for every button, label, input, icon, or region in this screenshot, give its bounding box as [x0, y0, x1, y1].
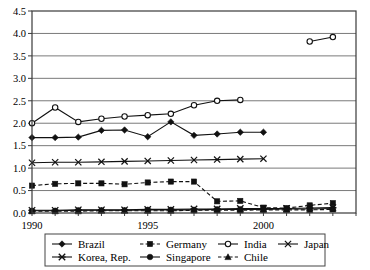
data-point [52, 134, 58, 140]
data-point [145, 133, 151, 139]
x-tick-label: 1995 [137, 220, 158, 231]
legend-marker [225, 241, 230, 246]
series-japan [29, 156, 267, 166]
legend-label: Chile [244, 251, 268, 263]
y-tick-label: 2.5 [13, 96, 26, 107]
data-point [168, 119, 174, 125]
legend-label: Brazil [78, 238, 105, 250]
data-point [237, 129, 243, 135]
data-point [238, 198, 243, 203]
chart-legend: BrazilGermanyIndiaJapanKorea, Rep.Singap… [45, 234, 330, 266]
data-point [191, 179, 196, 184]
data-point [145, 112, 150, 117]
y-axis-tick-labels: 0.00.51.01.52.02.53.03.54.04.5 [13, 6, 26, 219]
chart-container: 0.00.51.01.52.02.53.03.54.04.5 199019952… [0, 0, 370, 270]
data-point [76, 181, 81, 186]
y-tick-label: 1.0 [13, 163, 26, 174]
data-point [307, 39, 312, 44]
legend-label: Japan [304, 238, 330, 250]
y-tick-label: 0.0 [13, 208, 26, 219]
data-point [330, 34, 335, 39]
y-tick-label: 3.0 [13, 73, 26, 84]
series-line [310, 37, 333, 41]
data-point [52, 105, 57, 110]
data-point [99, 116, 104, 121]
series-brazil [29, 119, 267, 141]
series-layer [28, 34, 336, 213]
data-point [214, 131, 220, 137]
data-point [168, 111, 173, 116]
line-chart: 0.00.51.01.52.02.53.03.54.04.5 199019952… [0, 0, 370, 270]
data-point [122, 114, 127, 119]
data-point [191, 103, 196, 108]
data-point [98, 127, 104, 133]
series-line [32, 100, 240, 123]
data-point [214, 98, 219, 103]
y-tick-label: 4.5 [13, 6, 26, 17]
y-tick-label: 2.0 [13, 118, 26, 129]
legend-label: India [244, 238, 267, 250]
legend-label: Germany [166, 238, 207, 250]
legend-marker [147, 254, 153, 260]
data-point [238, 97, 243, 102]
data-point [191, 132, 197, 138]
y-tick-label: 3.5 [13, 51, 26, 62]
y-tick-label: 1.5 [13, 140, 26, 151]
data-point [168, 179, 173, 184]
data-point [145, 180, 150, 185]
data-point [122, 182, 127, 187]
data-point [99, 181, 104, 186]
x-tick-label: 1990 [22, 220, 43, 231]
x-tick-label: 2000 [253, 220, 274, 231]
legend-marker [147, 241, 152, 246]
data-point [53, 181, 58, 186]
data-point [121, 127, 127, 133]
y-tick-label: 4.0 [13, 28, 26, 39]
data-point [75, 134, 81, 140]
legend-label: Korea, Rep. [78, 251, 131, 263]
data-point [76, 119, 81, 124]
legend-label: Singapore [166, 251, 211, 263]
data-point [215, 199, 220, 204]
data-point [260, 129, 266, 135]
x-axis-tick-labels: 199019952000 [22, 213, 357, 231]
y-tick-label: 0.5 [13, 185, 26, 196]
series-india [29, 34, 335, 126]
